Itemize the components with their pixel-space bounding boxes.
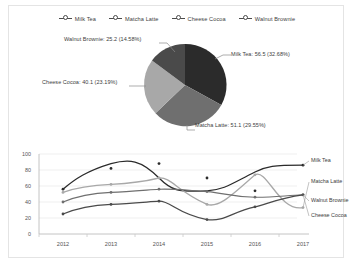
series-points-cheese-cocoa: [62, 193, 305, 221]
chart-card: Milk Tea Matcha Latte Cheese Cocoa Walnu…: [8, 5, 344, 258]
legend-label: Walnut Brownie: [255, 16, 295, 22]
series-label-matcha-latte: Matcha Latte: [311, 178, 342, 184]
legend-item-milk-tea[interactable]: Milk Tea: [59, 15, 96, 22]
y-tick-label: 100: [15, 151, 31, 157]
legend-marker-icon: [109, 15, 122, 22]
y-tick-label: 20: [15, 215, 31, 221]
leader-line-milk: [215, 55, 231, 59]
series-line-cheese-cocoa[interactable]: [63, 195, 303, 220]
legend-item-cheese-cocoa[interactable]: Cheese Cocoa: [172, 15, 226, 22]
legend-marker-icon: [239, 15, 252, 22]
y-tick-label: 80: [15, 167, 31, 173]
x-tick-label: 2014: [145, 241, 173, 247]
pie-chart-svg: [9, 26, 345, 144]
pie-label-walnut-brownie: Walnut Brownie: 25.2 (14.58%): [64, 36, 141, 42]
x-axis-ticks: [39, 234, 279, 237]
legend-item-matcha-latte[interactable]: Matcha Latte: [109, 15, 159, 22]
legend-label: Matcha Latte: [125, 16, 159, 22]
pie-label-cheese-cocoa: Cheese Cocoa: 40.1 (23.19%): [42, 79, 117, 85]
pie-legend: Milk Tea Matcha Latte Cheese Cocoa Walnu…: [9, 15, 345, 22]
x-tick-label: 2013: [97, 241, 125, 247]
y-tick-label: 60: [15, 183, 31, 189]
legend-marker-icon: [59, 15, 72, 22]
pie-label-matcha-latte: Matcha Latte: 51.1 (29.55%): [195, 122, 266, 128]
y-tick-label: 0: [15, 231, 31, 237]
pie-chart: Walnut Brownie: 25.2 (14.58%) Milk Tea: …: [9, 26, 345, 144]
x-tick-label: 2015: [193, 241, 221, 247]
line-chart: 100 80 60 40 20 0 2012 2013 2014 2015 20…: [9, 146, 345, 258]
legend-marker-icon: [172, 15, 185, 22]
x-tick-label: 2017: [289, 241, 317, 247]
legend-label: Cheese Cocoa: [188, 16, 226, 22]
x-tick-label: 2016: [241, 241, 269, 247]
series-label-milk-tea: Milk Tea: [311, 157, 331, 163]
series-line-milk-tea[interactable]: [63, 161, 303, 191]
y-tick-label: 40: [15, 199, 31, 205]
pie-label-milk-tea: Milk Tea: 56.5 (32.68%): [231, 51, 290, 57]
series-label-cheese-cocoa: Cheese Cocoa: [311, 212, 347, 218]
series-label-walnut-brownie: Walnut Brownie: [311, 197, 349, 203]
legend-label: Milk Tea: [75, 16, 96, 22]
chart-screenshot: Milk Tea Matcha Latte Cheese Cocoa Walnu…: [0, 0, 352, 266]
x-tick-label: 2012: [49, 241, 77, 247]
legend-item-walnut-brownie[interactable]: Walnut Brownie: [239, 15, 295, 22]
